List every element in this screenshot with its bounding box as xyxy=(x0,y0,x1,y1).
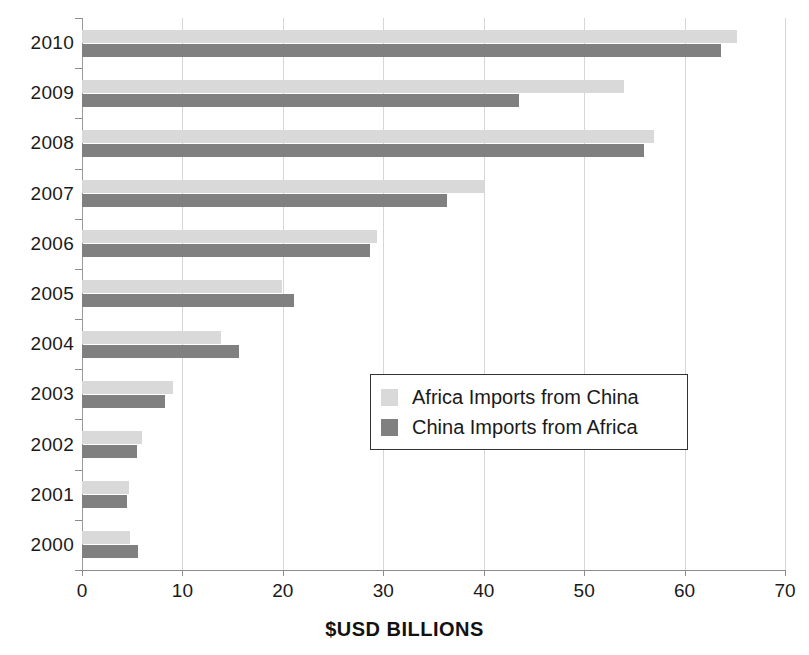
y-axis-tick xyxy=(75,369,82,370)
y-axis-tick xyxy=(75,219,82,220)
y-axis-tick-labels: 2010200920082007200620052004200320022001… xyxy=(0,0,74,655)
x-axis-tick xyxy=(785,570,786,576)
x-axis-tick-label: 60 xyxy=(655,580,715,602)
bar-group xyxy=(82,269,785,319)
y-axis-tick xyxy=(75,570,82,571)
chart-legend: Africa Imports from China China Imports … xyxy=(370,374,688,450)
y-axis-tick-label: 2004 xyxy=(6,333,74,355)
x-axis-tick-label: 40 xyxy=(454,580,514,602)
y-axis-tick xyxy=(75,470,82,471)
x-axis-tick-label: 0 xyxy=(52,580,112,602)
y-axis-tick xyxy=(75,169,82,170)
x-axis-tick xyxy=(685,570,686,576)
y-axis-tick xyxy=(75,118,82,119)
bar xyxy=(82,495,127,508)
legend-item-label: Africa Imports from China xyxy=(412,386,639,409)
bar xyxy=(82,431,142,444)
legend-swatch-icon xyxy=(381,389,398,406)
bar xyxy=(82,294,294,307)
x-axis-tick-label: 70 xyxy=(755,580,809,602)
bar xyxy=(82,30,737,43)
bar xyxy=(82,244,370,257)
x-axis-tick xyxy=(82,570,83,576)
bar xyxy=(82,345,239,358)
plot-area xyxy=(82,18,785,570)
y-axis-tick xyxy=(75,269,82,270)
bar-group xyxy=(82,470,785,520)
y-axis-tick xyxy=(75,319,82,320)
bar xyxy=(82,481,129,494)
bar-chart: 2010200920082007200620052004200320022001… xyxy=(0,0,809,655)
bar-group xyxy=(82,520,785,570)
y-axis-tick-label: 2002 xyxy=(6,434,74,456)
x-axis-tick xyxy=(182,570,183,576)
legend-item-label: China Imports from Africa xyxy=(412,416,638,439)
x-axis-tick-labels: 010203040506070 xyxy=(0,580,809,610)
x-gridline xyxy=(785,18,786,570)
y-axis-tick-label: 2007 xyxy=(6,183,74,205)
x-axis-tick-label: 50 xyxy=(554,580,614,602)
x-axis-title: $USD BILLIONS xyxy=(0,618,809,641)
bar xyxy=(82,531,130,544)
y-axis-tick-label: 2008 xyxy=(6,132,74,154)
bar xyxy=(82,545,138,558)
legend-item: China Imports from Africa xyxy=(381,412,677,442)
bar xyxy=(82,381,173,394)
y-axis-tick-label: 2005 xyxy=(6,283,74,305)
bar xyxy=(82,80,624,93)
legend-item: Africa Imports from China xyxy=(381,382,677,412)
y-axis-tick-label: 2009 xyxy=(6,82,74,104)
y-axis-tick-label: 2010 xyxy=(6,32,74,54)
bar-group xyxy=(82,219,785,269)
x-axis-line xyxy=(82,570,785,571)
y-axis-tick-label: 2006 xyxy=(6,233,74,255)
bar xyxy=(82,445,137,458)
bar xyxy=(82,230,377,243)
x-axis-tick-label: 20 xyxy=(253,580,313,602)
x-axis-tick xyxy=(383,570,384,576)
y-axis-tick xyxy=(75,18,82,19)
bar-group xyxy=(82,319,785,369)
bar xyxy=(82,94,519,107)
bar xyxy=(82,331,221,344)
x-axis-tick xyxy=(283,570,284,576)
bar xyxy=(82,130,654,143)
bar xyxy=(82,280,282,293)
x-axis-tick xyxy=(484,570,485,576)
bar xyxy=(82,194,447,207)
y-axis-tick xyxy=(75,419,82,420)
bar xyxy=(82,180,484,193)
bar-group xyxy=(82,169,785,219)
bar xyxy=(82,44,721,57)
x-axis-tick-label: 10 xyxy=(152,580,212,602)
y-axis-tick xyxy=(75,68,82,69)
bar-group xyxy=(82,68,785,118)
bar-group xyxy=(82,118,785,168)
x-axis-tick xyxy=(584,570,585,576)
y-axis-tick-label: 2003 xyxy=(6,383,74,405)
bar xyxy=(82,144,644,157)
y-axis-tick xyxy=(75,520,82,521)
bar-group xyxy=(82,18,785,68)
bar xyxy=(82,395,165,408)
x-axis-tick-label: 30 xyxy=(353,580,413,602)
y-axis-tick-label: 2001 xyxy=(6,484,74,506)
legend-swatch-icon xyxy=(381,419,398,436)
y-axis-tick-label: 2000 xyxy=(6,534,74,556)
